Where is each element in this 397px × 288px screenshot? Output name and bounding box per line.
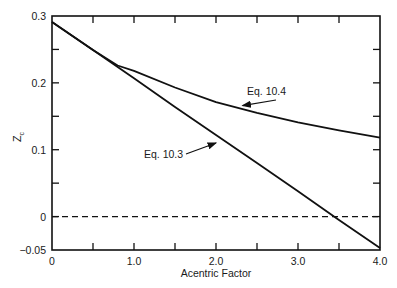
x-tick-label: 0 [49,255,55,267]
x-tick-label: 2.0 [209,255,224,267]
y-tick-label: −0.05 [19,244,46,256]
chart: 01.02.03.04.0−0.0500.10.20.3 Eq. 10.4Eq.… [0,0,397,288]
y-tick-label: 0.2 [31,77,46,89]
y-tick-label: 0 [40,211,46,223]
data-series [52,22,380,248]
y-axis-label: Zc [11,131,25,142]
annotations: Eq. 10.4Eq. 10.3 [144,85,286,160]
y-tick-label: 0.1 [31,144,46,156]
annotation-eq-10-3: Eq. 10.3 [144,148,183,160]
x-tick-label: 3.0 [291,255,306,267]
x-tick-label: 1.0 [127,255,142,267]
axis-tick-labels: 01.02.03.04.0−0.0500.10.20.3 [19,10,387,267]
y-tick-label: 0.3 [31,10,46,22]
series-eq-10-4 [52,22,380,138]
x-axis-label: Acentric Factor [181,267,252,279]
x-tick-label: 4.0 [373,255,388,267]
annotation-eq-10-4: Eq. 10.4 [247,85,286,97]
svg-text:Zc: Zc [11,131,25,142]
